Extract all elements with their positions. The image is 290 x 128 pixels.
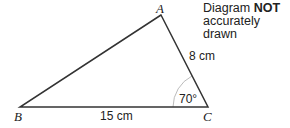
triangle-diagram: A B C 8 cm 15 cm 70° bbox=[0, 0, 290, 128]
vertex-a-label: A bbox=[155, 1, 164, 16]
side-bc-length: 15 cm bbox=[100, 109, 133, 123]
angle-c-value: 70° bbox=[179, 92, 197, 106]
vertex-c-label: C bbox=[203, 109, 212, 124]
vertex-b-label: B bbox=[14, 109, 22, 124]
side-ac-length: 8 cm bbox=[189, 49, 215, 63]
